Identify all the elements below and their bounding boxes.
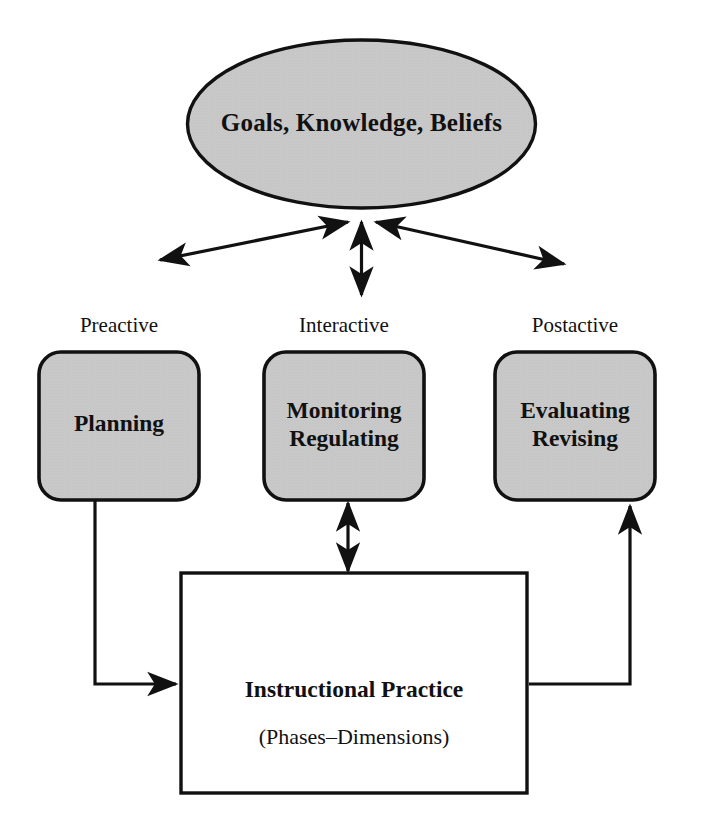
diagram-graphics: [0, 0, 714, 828]
connector-planning-practice: [95, 501, 176, 684]
connector-practice-evaluating: [529, 506, 630, 684]
planning-box: [39, 352, 199, 500]
goals-knowledge-beliefs-ellipse: [188, 40, 536, 208]
diagram-canvas: Goals, Knowledge, Beliefs Preactive Inte…: [0, 0, 714, 828]
instructional-practice-box: [181, 573, 527, 793]
evaluating-revising-box: [495, 352, 655, 500]
connector-ellipse-postactive: [376, 222, 564, 264]
connector-ellipse-preactive: [160, 222, 348, 260]
monitoring-regulating-box: [264, 352, 424, 500]
